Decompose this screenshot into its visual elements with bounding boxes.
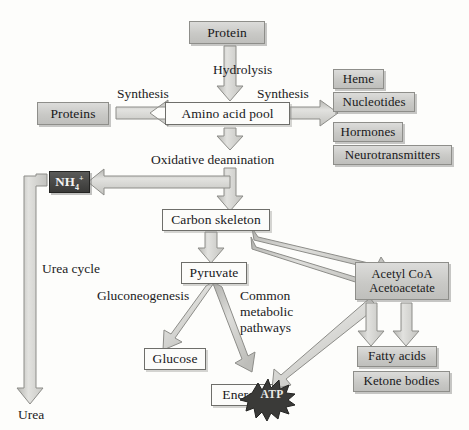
node-neurotransmitters[interactable]: Neurotransmitters [333, 145, 452, 165]
node-fatty-acids-label: Fatty acids [368, 349, 426, 364]
node-carbon-skeleton[interactable]: Carbon skeleton [162, 209, 270, 231]
label-common-metabolic-line2: metabolic [240, 304, 293, 320]
node-glucose-label: Glucose [153, 351, 198, 366]
node-proteins[interactable]: Proteins [37, 102, 109, 125]
arrow-urea-cycle [17, 174, 47, 404]
arrow-pool-to-proteins [116, 100, 168, 126]
node-acetyl-coa-line2: Acetoacetate [369, 281, 435, 295]
node-neurotransmitters-label: Neurotransmitters [345, 148, 441, 163]
node-carbon-skeleton-label: Carbon skeleton [171, 212, 261, 227]
label-common-metabolic-line3: pathways [240, 320, 293, 336]
node-acetyl-coa[interactable]: Acetyl CoA Acetoacetate [355, 262, 449, 300]
node-ketone-bodies-label: Ketone bodies [363, 374, 439, 389]
node-ketone-bodies[interactable]: Ketone bodies [353, 371, 450, 392]
label-gluconeogenesis: Gluconeogenesis [97, 288, 189, 304]
node-proteins-label: Proteins [50, 106, 95, 121]
node-pyruvate[interactable]: Pyruvate [181, 262, 247, 284]
node-acetyl-coa-line1: Acetyl CoA [371, 267, 432, 281]
node-pyruvate-label: Pyruvate [190, 265, 239, 280]
metabolism-diagram: Protein Amino acid pool Proteins Heme Nu… [0, 0, 469, 430]
arrow-pool-to-products [290, 100, 338, 126]
node-nucleotides[interactable]: Nucleotides [333, 92, 415, 112]
node-protein-label: Protein [207, 25, 247, 40]
node-amino-acid-pool-label: Amino acid pool [181, 106, 273, 121]
arrow-pool-down [217, 128, 243, 150]
label-common-metabolic-pathways: Common metabolic pathways [240, 288, 293, 336]
arrow-acetyl-to-ketone-bodies [393, 303, 419, 346]
node-protein[interactable]: Protein [189, 21, 265, 44]
node-glucose[interactable]: Glucose [144, 348, 206, 370]
node-nucleotides-label: Nucleotides [342, 95, 405, 110]
node-hormones-label: Hormones [341, 125, 396, 140]
label-urea: Urea [18, 407, 44, 423]
arrow-deamination-to-carbon-skeleton [217, 168, 243, 211]
node-atp[interactable]: ATP [252, 385, 292, 403]
label-common-metabolic-line1: Common [240, 288, 293, 304]
label-synthesis-right: Synthesis [257, 86, 309, 102]
node-ammonium-label: NH4+ [55, 175, 84, 190]
node-atp-label: ATP [260, 388, 283, 400]
node-ammonium[interactable]: NH4+ [49, 171, 90, 193]
label-oxidative-deamination: Oxidative deamination [151, 152, 274, 168]
arrow-carbon-to-pyruvate [198, 232, 224, 263]
node-hormones[interactable]: Hormones [333, 122, 403, 142]
node-heme[interactable]: Heme [333, 69, 384, 89]
node-amino-acid-pool[interactable]: Amino acid pool [165, 102, 290, 125]
node-fatty-acids[interactable]: Fatty acids [357, 346, 437, 367]
label-hydrolysis: Hydrolysis [213, 62, 272, 78]
node-heme-label: Heme [343, 72, 374, 87]
arrow-branch-to-ammonium [88, 169, 230, 195]
label-urea-cycle: Urea cycle [42, 261, 100, 277]
label-synthesis-left: Synthesis [117, 86, 169, 102]
